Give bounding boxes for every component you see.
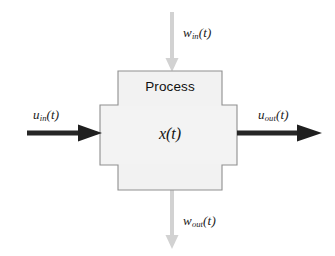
process-block-label: Process bbox=[118, 79, 222, 94]
w-out-subscript: out bbox=[192, 219, 203, 229]
w-in-argument: (t) bbox=[199, 25, 212, 40]
diagram-canvas: Process x(t) win(t) wout(t) uin(t) uout(… bbox=[0, 0, 335, 256]
w-out-base: w bbox=[183, 213, 192, 228]
u-in-base: u bbox=[33, 107, 40, 122]
w-out-arrowhead bbox=[166, 235, 179, 249]
process-state-label: x(t) bbox=[118, 125, 222, 143]
w-out-arrow bbox=[166, 190, 179, 249]
w-in-arrow bbox=[166, 12, 179, 72]
w-out-argument: (t) bbox=[203, 213, 216, 228]
u-out-signal-label: uout(t) bbox=[258, 108, 289, 123]
u-out-arrowhead bbox=[297, 125, 322, 142]
w-in-arrowhead bbox=[166, 58, 179, 72]
u-out-subscript: out bbox=[265, 113, 276, 123]
w-in-subscript: in bbox=[192, 31, 199, 41]
u-in-arrow bbox=[27, 125, 102, 142]
u-in-argument: (t) bbox=[47, 107, 60, 122]
u-in-signal-label: uin(t) bbox=[33, 108, 59, 123]
u-out-base: u bbox=[258, 107, 265, 122]
u-in-subscript: in bbox=[40, 113, 47, 123]
u-out-arrow bbox=[237, 125, 322, 142]
w-out-signal-label: wout(t) bbox=[183, 214, 216, 229]
w-in-base: w bbox=[183, 25, 192, 40]
w-in-signal-label: win(t) bbox=[183, 26, 212, 41]
u-out-argument: (t) bbox=[276, 107, 289, 122]
u-in-arrowhead bbox=[78, 125, 102, 142]
